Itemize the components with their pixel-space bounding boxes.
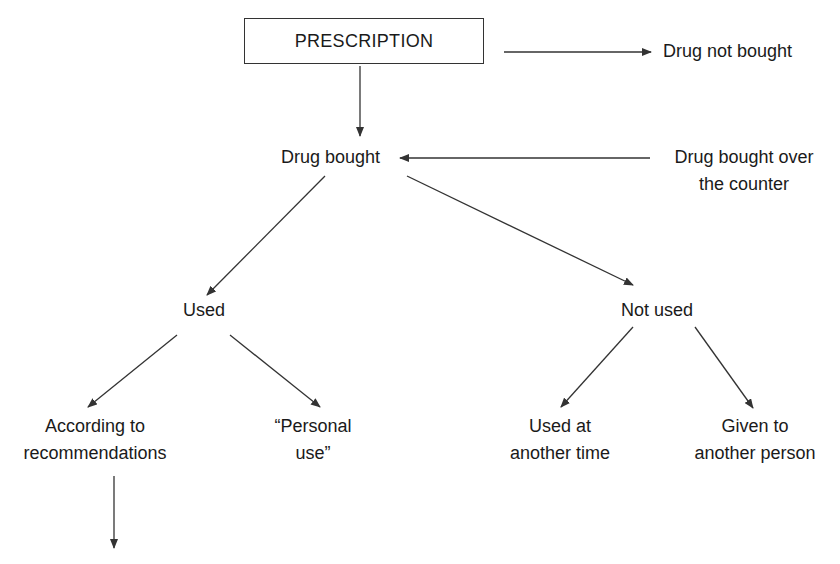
node-text: Drug bought <box>281 144 380 171</box>
prescription-box: PRESCRIPTION <box>244 18 484 64</box>
node-text: another time <box>490 440 630 467</box>
prescription-label: PRESCRIPTION <box>295 31 434 52</box>
node-text: Drug bought over <box>660 144 828 171</box>
node-text: another person <box>680 440 830 467</box>
edge-bought-to-not-used <box>407 176 633 285</box>
node-used-another-time: Used at another time <box>490 413 630 467</box>
node-personal-use: “Personal use” <box>253 413 373 467</box>
node-according: According to recommendations <box>5 413 185 467</box>
node-used: Used <box>154 297 254 324</box>
node-text: Used at <box>490 413 630 440</box>
node-text: Not used <box>597 297 717 324</box>
edge-used-to-personal <box>230 335 320 407</box>
node-text: Drug not bought <box>663 38 792 65</box>
edge-used-to-according <box>88 335 177 407</box>
edge-notused-to-another-time <box>561 327 633 407</box>
node-given-another-person: Given to another person <box>680 413 830 467</box>
node-drug-not-bought: Drug not bought <box>663 38 792 65</box>
node-otc: Drug bought over the counter <box>660 144 828 198</box>
edge-bought-to-used <box>207 176 325 295</box>
node-not-used: Not used <box>597 297 717 324</box>
node-text: Given to <box>680 413 830 440</box>
edge-notused-to-another-person <box>695 327 753 408</box>
node-text: “Personal <box>253 413 373 440</box>
node-text: recommendations <box>5 440 185 467</box>
node-text: According to <box>5 413 185 440</box>
node-text: use” <box>253 440 373 467</box>
diagram-edges <box>0 0 840 564</box>
node-text: the counter <box>660 171 828 198</box>
node-drug-bought: Drug bought <box>281 144 380 171</box>
node-text: Used <box>154 297 254 324</box>
